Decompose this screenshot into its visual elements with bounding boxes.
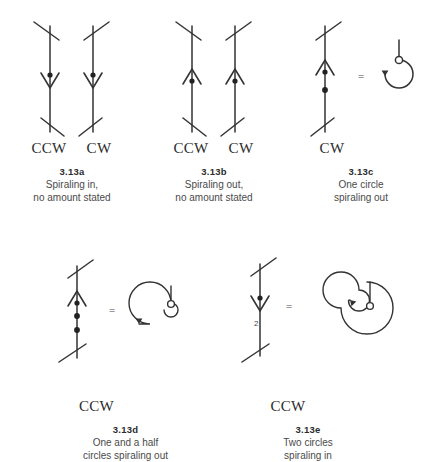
figure-3-13b-caption-text: Spiraling out, no amount stated <box>175 179 252 204</box>
direction-label: CCW <box>270 398 305 415</box>
direction-label: CW <box>76 140 122 157</box>
figure-3-13a-caption-number: 3.13a <box>60 166 85 177</box>
figure-3-13e-directions: CCW <box>270 398 345 415</box>
direction-label: CCW <box>164 140 218 157</box>
equals-sign-3-13d: = <box>109 304 115 316</box>
path-sign-spiraling-in-cw <box>79 22 109 136</box>
figure-3-13d-caption-text: One and a half circles spiraling out <box>83 437 168 462</box>
equals-sign-3-13c: = <box>358 70 364 82</box>
path-sign-spiraling-in-ccw <box>34 22 64 136</box>
direction-label: CW <box>218 140 264 157</box>
figure-3-13c-caption-number: 3.13c <box>349 166 374 177</box>
figure-3-13d: = CCW 3.13d One and a half circles spira… <box>48 258 203 462</box>
amount-label-3-13e: 2 <box>254 319 259 328</box>
direction-label: CCW <box>79 398 114 415</box>
figure-3-13a-caption-text: Spiraling in, no amount stated <box>33 179 110 204</box>
figure-3-13e-caption-text: Two circles spiraling in <box>283 437 332 462</box>
figure-3-13d-directions: CCW <box>79 398 172 415</box>
figure-3-13b-directions: CCW CW <box>164 140 264 157</box>
figure-3-13b-caption-number: 3.13b <box>201 166 226 177</box>
figure-3-13e-caption-number: 3.13e <box>296 424 321 435</box>
figure-3-13a: CCW CW 3.13a Spiraling in, no amount sta… <box>8 18 136 204</box>
figure-3-13d-caption-number: 3.13d <box>113 424 138 435</box>
path-sign-one-circle-spiraling-out <box>311 22 341 136</box>
path-sign-one-and-half-circles-spiraling-out <box>59 260 93 362</box>
path-diagram-two-circle <box>323 272 393 334</box>
figure-3-13a-directions: CCW CW <box>22 140 122 157</box>
figure-3-13c-directions: CW <box>320 140 403 157</box>
direction-label: CW <box>320 140 345 157</box>
figure-3-13c-caption-text: One circle spiraling out <box>334 179 388 204</box>
figure-3-13e-symbols: 2 = <box>230 258 386 366</box>
equals-sign-3-13e: = <box>286 300 292 312</box>
figure-3-13e: 2 = CCW 3.13e Two circles spiraling in <box>228 258 388 462</box>
path-sign-spiraling-out-cw <box>221 22 251 136</box>
figure-3-13b: CCW CW 3.13b Spiraling out, no amount st… <box>150 18 278 204</box>
figure-3-13c: = CW 3.13c One circle spiraling out <box>291 18 431 204</box>
figure-3-13a-symbols <box>12 18 132 140</box>
direction-label: CCW <box>22 140 76 157</box>
figure-3-13d-symbols: = <box>51 258 201 366</box>
path-diagram-one-circle <box>382 40 413 88</box>
figure-3-13b-symbols <box>154 18 274 140</box>
path-sign-spiraling-out-ccw <box>176 22 206 136</box>
figure-3-13c-symbols: = <box>293 18 429 140</box>
path-sign-two-circles-spiraling-in: 2 <box>242 258 276 362</box>
path-diagram-one-and-half-circle <box>129 282 178 324</box>
